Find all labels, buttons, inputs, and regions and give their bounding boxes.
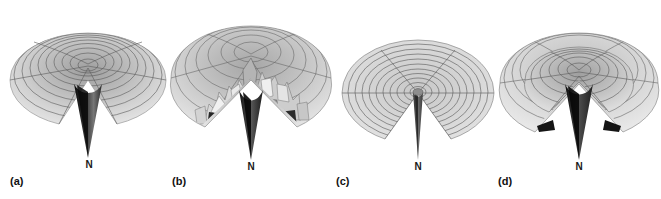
panel-b: N (b): [165, 0, 341, 199]
figure-energy-landscapes: N (a): [0, 0, 661, 199]
apex-label-c: N: [408, 162, 428, 172]
panel-d: N (d): [497, 0, 661, 199]
panel-c: N (c): [335, 0, 507, 199]
panel-label-a: (a): [10, 175, 23, 187]
panel-a: N (a): [0, 0, 176, 199]
panel-label-b: (b): [172, 175, 186, 187]
panel-label-c: (c): [336, 175, 349, 187]
apex-label-b: N: [241, 162, 261, 172]
panel-label-d: (d): [498, 175, 512, 187]
apex-label-d: N: [569, 162, 589, 172]
center-hub-c: [413, 89, 423, 96]
apex-label-a: N: [79, 160, 99, 170]
